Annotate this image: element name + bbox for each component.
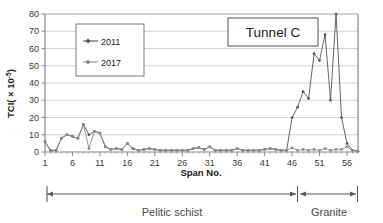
legend-label-2017: 2017 (101, 58, 121, 68)
data-point-marker (88, 133, 91, 136)
data-point-marker (132, 147, 135, 150)
data-point-marker (115, 147, 118, 150)
x-tick-label-21: 21 (150, 158, 160, 168)
data-point-marker (324, 33, 327, 36)
data-point-marker (313, 148, 316, 151)
x-tick-label-1: 1 (42, 158, 47, 168)
pelitic-schist-arrow-head-right-icon (290, 191, 296, 196)
data-point-marker (186, 149, 189, 152)
legend-label-2011: 2011 (101, 37, 120, 47)
x-tick-label-6: 6 (70, 158, 75, 168)
tunnel-callout: Tunnel C (228, 18, 318, 46)
region-annotations: Pelitic schist Granite (47, 186, 358, 218)
data-point-marker (346, 142, 349, 145)
data-point-marker (55, 149, 58, 152)
data-point-marker (99, 132, 102, 135)
data-point-marker (340, 116, 343, 119)
data-point-marker (291, 146, 294, 149)
data-point-marker (346, 145, 349, 148)
tci-span-line-chart: 01020304050607080 1611162126313641465156… (0, 0, 383, 223)
data-point-marker (164, 149, 167, 152)
data-point-marker (274, 148, 277, 151)
data-point-marker (192, 147, 195, 150)
data-point-marker (159, 149, 162, 152)
data-point-marker (71, 135, 74, 138)
chart-figure: 01020304050607080 1611162126313641465156… (0, 0, 383, 223)
data-point-marker (335, 148, 338, 151)
data-point-marker (214, 149, 217, 152)
pelitic-schist-label: Pelitic schist (142, 206, 203, 218)
data-point-marker (170, 149, 173, 152)
data-point-marker (142, 148, 145, 151)
y-tick-label-30: 30 (29, 95, 39, 105)
y-tick-label-60: 60 (29, 44, 39, 54)
data-point-marker (241, 149, 244, 152)
x-tick-label-51: 51 (315, 158, 325, 168)
y-tick-label-70: 70 (29, 26, 39, 36)
data-point-marker (340, 148, 343, 151)
data-point-marker (247, 149, 250, 152)
data-point-marker (351, 149, 354, 152)
y-axis-title-prefix: TCI( × 10 (5, 78, 16, 118)
data-point-marker (307, 97, 310, 100)
granite-arrow-head-right-icon (350, 191, 356, 196)
data-point-marker (269, 147, 272, 150)
data-point-marker (285, 149, 288, 152)
data-point-marker (291, 116, 294, 119)
y-tick-label-10: 10 (29, 130, 39, 140)
data-point-marker (110, 148, 113, 151)
data-point-marker (93, 130, 96, 133)
legend: 2011 2017 (76, 24, 144, 76)
y-tick-label-40: 40 (29, 78, 39, 88)
data-point-marker (252, 149, 255, 152)
data-point-marker (104, 145, 107, 148)
data-point-marker (44, 140, 47, 143)
data-point-marker (175, 149, 178, 152)
data-point-marker (307, 149, 310, 152)
tunnel-callout-label: Tunnel C (246, 25, 301, 40)
data-point-marker (137, 149, 140, 152)
pelitic-schist-arrow-head-left-icon (47, 191, 53, 196)
y-axis-title: TCI( × 10-5) (5, 69, 16, 118)
y-axis-ticks: 01020304050607080 (29, 9, 45, 157)
data-point-marker (280, 149, 283, 152)
data-point-marker (329, 149, 332, 152)
data-point-marker (197, 146, 200, 149)
data-point-marker (77, 137, 80, 140)
data-point-marker (121, 148, 124, 151)
legend-box (76, 24, 144, 76)
pelitic-schist-arrow: Pelitic schist (47, 186, 298, 218)
data-point-marker (302, 90, 305, 93)
data-point-marker (302, 148, 305, 151)
svg-text:TCI( × 10-5): TCI( × 10-5) (5, 69, 16, 118)
data-point-marker (329, 99, 332, 102)
data-point-marker (318, 149, 321, 152)
data-point-marker (313, 52, 316, 55)
x-tick-label-11: 11 (95, 158, 104, 168)
x-axis-ticks: 1611162126313641465156 (42, 152, 358, 168)
data-point-marker (230, 149, 233, 152)
data-point-marker (49, 150, 52, 153)
data-point-marker (335, 13, 338, 16)
x-tick-label-46: 46 (287, 158, 297, 168)
data-point-marker (296, 149, 299, 152)
data-point-marker (148, 147, 151, 150)
data-point-marker (236, 147, 239, 150)
x-tick-label-56: 56 (342, 158, 352, 168)
x-axis-title: Span No. (180, 167, 221, 178)
data-point-marker (208, 145, 211, 148)
y-tick-label-80: 80 (29, 9, 39, 19)
x-tick-label-36: 36 (232, 158, 242, 168)
granite-label: Granite (311, 206, 347, 218)
data-point-marker (181, 149, 184, 152)
data-point-marker (318, 59, 321, 62)
granite-arrow-head-left-icon (300, 191, 306, 196)
data-point-marker (88, 147, 91, 150)
data-point-marker (203, 148, 206, 151)
x-tick-label-41: 41 (260, 158, 270, 168)
data-point-marker (296, 106, 299, 109)
y-tick-label-0: 0 (34, 147, 39, 157)
granite-arrow: Granite (300, 186, 358, 218)
x-tick-label-16: 16 (122, 158, 132, 168)
y-axis-title-suffix: ) (5, 69, 16, 72)
